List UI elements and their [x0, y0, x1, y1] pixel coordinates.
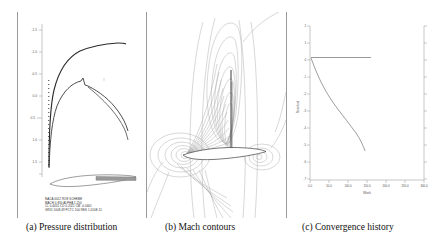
caption-panel-c: (c) Convergence history [302, 222, 394, 232]
cp-upper-surface-curve-tail [118, 43, 126, 44]
svg-text:-1.5: -1.5 [32, 28, 38, 32]
svg-text:-6: -6 [303, 160, 306, 164]
svg-text:-1: -1 [303, 75, 306, 79]
cp-lower-surface-curve-aft [88, 87, 128, 140]
svg-text:1.5: 1.5 [33, 160, 38, 164]
svg-text:-1.0: -1.0 [32, 50, 38, 54]
svg-text:0.5: 0.5 [31, 116, 36, 120]
svg-text:-0.5: -0.5 [32, 72, 38, 76]
panel-convergence-history: 2 1 0 -1 -2 -3 -4 -5 -6 -7 0.0 50.0 100.… [292, 12, 440, 218]
svg-text:0.0: 0.0 [308, 184, 312, 188]
mach-contour-lines [147, 12, 286, 218]
caption-panel-a: (a) Pressure distribution [26, 222, 117, 232]
svg-text:2: 2 [304, 24, 306, 28]
svg-text:-7: -7 [303, 177, 306, 181]
residual-tick-labels: 2 1 0 -1 -2 -3 -4 -5 -6 -7 [303, 24, 306, 181]
cp-surface-point-markers [48, 80, 49, 165]
mach-contours-plot [147, 12, 286, 218]
svg-text:150.0: 150.0 [363, 184, 371, 188]
cp-axis-ticks [37, 30, 42, 174]
svg-text:-5: -5 [303, 143, 306, 147]
svg-text:100.0: 100.0 [344, 184, 352, 188]
work-axis-label: Work [363, 191, 371, 195]
svg-text:250.0: 250.0 [401, 184, 409, 188]
svg-text:1.0: 1.0 [33, 138, 38, 142]
cp-axis-tick-labels: -1.5 -1.0 -0.5 0.0 0.5 1.0 1.5 [31, 28, 38, 164]
svg-text:-2: -2 [303, 92, 306, 96]
svg-text:50.0: 50.0 [326, 184, 332, 188]
panel-mach-contours [146, 12, 287, 218]
convergence-history-plot: 2 1 0 -1 -2 -3 -4 -5 -6 -7 0.0 50.0 100.… [292, 12, 440, 218]
work-axis-ticks [310, 180, 424, 183]
residual-axis-ticks [307, 26, 427, 179]
svg-text:0: 0 [304, 58, 306, 62]
residual-axis-label: Residual [296, 101, 300, 114]
panels-row: -1.5 -1.0 -0.5 0.0 0.5 1.0 1.5 [0, 0, 443, 218]
svg-text:-3: -3 [303, 109, 306, 113]
airfoil-outline [50, 175, 136, 187]
airfoil-shock-band [96, 177, 136, 181]
residual-convergence-curve [311, 58, 365, 151]
work-tick-labels: 0.0 50.0 100.0 150.0 200.0 250.0 300.0 [308, 184, 428, 188]
svg-text:1: 1 [304, 41, 306, 45]
svg-text:200.0: 200.0 [382, 184, 390, 188]
info-line-grid: GRID 1008 49 PCTC 100 RES 1.010E-11 [45, 209, 102, 213]
figure-captions: (a) Pressure distribution (b) Mach conto… [0, 222, 443, 242]
pressure-distribution-plot: -1.5 -1.0 -0.5 0.0 0.5 1.0 1.5 [18, 12, 146, 218]
panel-a-info-block: NACA 0012 ROE SCHEME MACH 0.850 ALPHA 1.… [45, 198, 102, 212]
svg-text:300.0: 300.0 [420, 184, 428, 188]
caption-panel-b: (b) Mach contours [165, 222, 235, 232]
cfd-results-figure: -1.5 -1.0 -0.5 0.0 0.5 1.0 1.5 [0, 0, 443, 248]
cp-lower-surface-curve [49, 81, 81, 168]
svg-text:0.0: 0.0 [33, 94, 38, 98]
panel-pressure-distribution: -1.5 -1.0 -0.5 0.0 0.5 1.0 1.5 [17, 12, 147, 218]
svg-text:-4: -4 [303, 126, 306, 130]
